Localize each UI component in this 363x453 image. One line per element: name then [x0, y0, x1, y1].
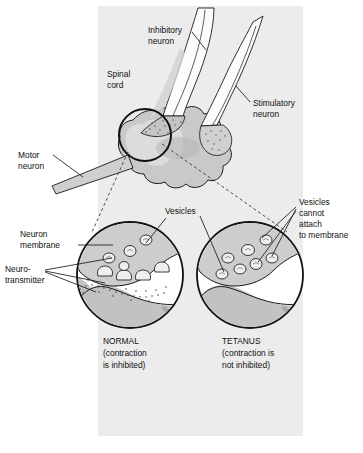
- label-vesicles: Vesicles: [165, 206, 196, 216]
- caption-normal-line1: (contraction: [103, 348, 147, 358]
- label-inhibitory-neuron-line1: Inhibitory: [148, 25, 183, 35]
- label-vesicles-cannot-line1: Vesicles: [299, 197, 330, 207]
- label-neurotransmitter-line1: Neuro-: [5, 264, 31, 274]
- synapse-diagram: Inhibitory neuron Spinal cord Stimulator…: [0, 0, 363, 453]
- label-motor-neuron-line1: Motor: [18, 150, 40, 160]
- label-vesicles-cannot-line4: to membrane: [299, 230, 349, 240]
- caption-normal-line2: is inhibited): [103, 360, 146, 370]
- label-stimulatory-neuron-line2: neuron: [253, 109, 279, 119]
- label-neuron-membrane-line1: Neuron: [20, 229, 48, 239]
- leader-motor-neuron: [53, 155, 83, 177]
- label-stimulatory-neuron-line1: Stimulatory: [253, 98, 296, 108]
- label-neuron-membrane-line2: membrane: [20, 240, 60, 250]
- caption-normal-heading: NORMAL: [103, 336, 139, 346]
- label-neurotransmitter-line2: transmitter: [5, 275, 45, 285]
- cell-body-shading: [156, 137, 200, 159]
- label-spinal-cord-line1: Spinal: [107, 69, 130, 79]
- label-vesicles-cannot-line2: cannot: [299, 208, 325, 218]
- label-motor-neuron-line2: neuron: [18, 161, 44, 171]
- figure-container: Inhibitory neuron Spinal cord Stimulator…: [0, 0, 363, 453]
- label-inhibitory-neuron-line2: neuron: [148, 36, 174, 46]
- label-spinal-cord-line2: cord: [107, 80, 124, 90]
- label-vesicles-cannot-line3: attach: [299, 219, 322, 229]
- caption-tetanus-heading: TETANUS: [222, 336, 261, 346]
- caption-tetanus-line2: not inhibited): [222, 360, 270, 370]
- caption-tetanus-line1: (contraction is: [222, 348, 274, 358]
